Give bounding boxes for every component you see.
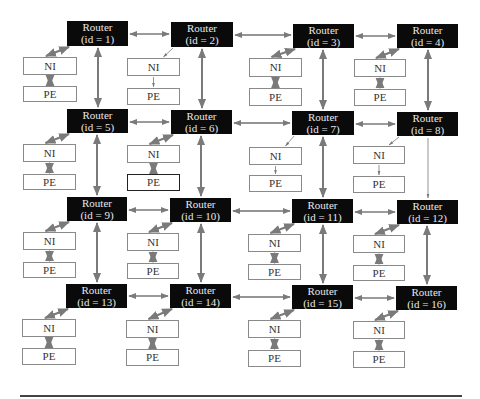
ni-box-1: NI bbox=[23, 57, 77, 75]
ni-box-9: NI bbox=[23, 232, 76, 250]
router-id-label: (id = 9) bbox=[67, 210, 127, 222]
pe-box-9: PE bbox=[23, 262, 76, 278]
router-label: Router bbox=[397, 201, 458, 213]
link-r2-ni bbox=[164, 48, 174, 57]
link-r11-ni bbox=[271, 224, 295, 233]
pe-box-11: PE bbox=[248, 264, 301, 280]
router-label: Router bbox=[397, 25, 458, 37]
router-id-label: (id = 6) bbox=[171, 123, 232, 135]
router-label: Router bbox=[170, 285, 231, 297]
pe-box-15: PE bbox=[248, 350, 301, 367]
pe-box-7: PE bbox=[249, 175, 302, 192]
link-r13-ni bbox=[45, 309, 68, 318]
link-r7-ni bbox=[286, 136, 295, 146]
ni-box-6: NI bbox=[127, 145, 180, 163]
ni-box-15: NI bbox=[248, 320, 301, 338]
ni-box-12: NI bbox=[353, 235, 405, 253]
pe-box-4: PE bbox=[354, 89, 406, 106]
router-label: Router bbox=[292, 286, 353, 298]
link-r3-ni bbox=[272, 49, 296, 57]
router-id-label: (id = 15) bbox=[292, 298, 353, 310]
router-16: Router(id = 16) bbox=[396, 286, 457, 310]
router-id-label: (id = 14) bbox=[170, 297, 231, 309]
router-14: Router(id = 14) bbox=[170, 284, 231, 308]
pe-box-13: PE bbox=[22, 348, 76, 365]
router-8: Router(id = 8) bbox=[397, 112, 458, 136]
link-r5-ni bbox=[46, 134, 70, 143]
router-11: Router(id = 11) bbox=[292, 199, 353, 223]
pe-box-8: PE bbox=[353, 176, 405, 193]
router-id-label: (id = 10) bbox=[170, 211, 231, 223]
pe-box-16: PE bbox=[353, 351, 405, 368]
pe-box-1: PE bbox=[23, 86, 77, 102]
router-label: Router bbox=[67, 198, 127, 210]
router-id-label: (id = 5) bbox=[67, 122, 128, 134]
link-r1-ni bbox=[46, 47, 69, 56]
bottom-rule bbox=[20, 395, 462, 397]
router-5: Router(id = 5) bbox=[67, 109, 128, 133]
pe-box-10: PE bbox=[127, 263, 179, 279]
router-label: Router bbox=[171, 111, 232, 123]
pe-box-5: PE bbox=[23, 174, 76, 190]
router-id-label: (id = 16) bbox=[396, 299, 457, 311]
router-label: Router bbox=[292, 200, 353, 212]
router-9: Router(id = 9) bbox=[67, 197, 127, 221]
link-r8-ni bbox=[389, 137, 399, 145]
ni-box-14: NI bbox=[126, 320, 179, 338]
pe-box-2: PE bbox=[127, 88, 180, 105]
router-label: Router bbox=[170, 199, 231, 211]
ni-box-2: NI bbox=[127, 58, 180, 76]
router-10: Router(id = 10) bbox=[170, 198, 231, 222]
router-6: Router(id = 6) bbox=[171, 110, 232, 134]
pe-box-12: PE bbox=[353, 265, 405, 281]
ni-box-13: NI bbox=[22, 319, 76, 337]
router-4: Router(id = 4) bbox=[397, 24, 458, 48]
router-id-label: (id = 11) bbox=[292, 212, 353, 224]
router-15: Router(id = 15) bbox=[292, 285, 353, 309]
pe-box-6: PE bbox=[127, 174, 180, 191]
ni-box-3: NI bbox=[249, 58, 302, 77]
router-id-label: (id = 2) bbox=[171, 35, 233, 47]
router-12: Router(id = 12) bbox=[397, 200, 458, 224]
pe-box-3: PE bbox=[249, 88, 302, 106]
link-r14-ni bbox=[149, 309, 173, 319]
link-r16-ni bbox=[375, 311, 398, 320]
router-label: Router bbox=[67, 110, 128, 122]
router-label: Router bbox=[396, 287, 457, 299]
router-label: Router bbox=[397, 113, 458, 125]
link-r12-ni bbox=[375, 225, 399, 234]
router-3: Router(id = 3) bbox=[293, 24, 354, 48]
router-1: Router(id = 1) bbox=[67, 21, 128, 46]
router-id-label: (id = 7) bbox=[292, 124, 354, 136]
router-2: Router(id = 2) bbox=[171, 22, 233, 47]
noc-mesh-diagram: NIPENIPENIPENIPENIPENIPENIPENIPENIPENIPE… bbox=[0, 0, 480, 399]
router-label: Router bbox=[171, 23, 233, 35]
pe-box-14: PE bbox=[126, 349, 179, 366]
router-label: Router bbox=[67, 22, 128, 34]
router-id-label: (id = 3) bbox=[293, 37, 354, 49]
ni-box-8: NI bbox=[353, 146, 405, 164]
router-id-label: (id = 12) bbox=[397, 213, 458, 225]
ni-box-7: NI bbox=[249, 147, 302, 165]
router-label: Router bbox=[293, 25, 354, 37]
link-r15-ni bbox=[271, 310, 295, 319]
ni-box-4: NI bbox=[354, 59, 406, 77]
link-r9-ni bbox=[46, 222, 70, 231]
router-id-label: (id = 1) bbox=[67, 34, 128, 46]
ni-box-10: NI bbox=[127, 233, 179, 251]
router-id-label: (id = 8) bbox=[397, 125, 458, 137]
ni-box-11: NI bbox=[248, 234, 301, 252]
link-r4-ni bbox=[376, 49, 399, 58]
router-7: Router(id = 7) bbox=[292, 111, 354, 135]
router-id-label: (id = 4) bbox=[397, 37, 458, 49]
router-label: Router bbox=[292, 112, 354, 124]
link-r6-ni bbox=[150, 135, 174, 144]
link-r10-ni bbox=[149, 223, 172, 232]
ni-box-5: NI bbox=[23, 144, 76, 162]
router-label: Router bbox=[66, 285, 127, 297]
router-id-label: (id = 13) bbox=[66, 297, 127, 309]
router-13: Router(id = 13) bbox=[66, 284, 127, 308]
ni-box-16: NI bbox=[353, 321, 405, 339]
